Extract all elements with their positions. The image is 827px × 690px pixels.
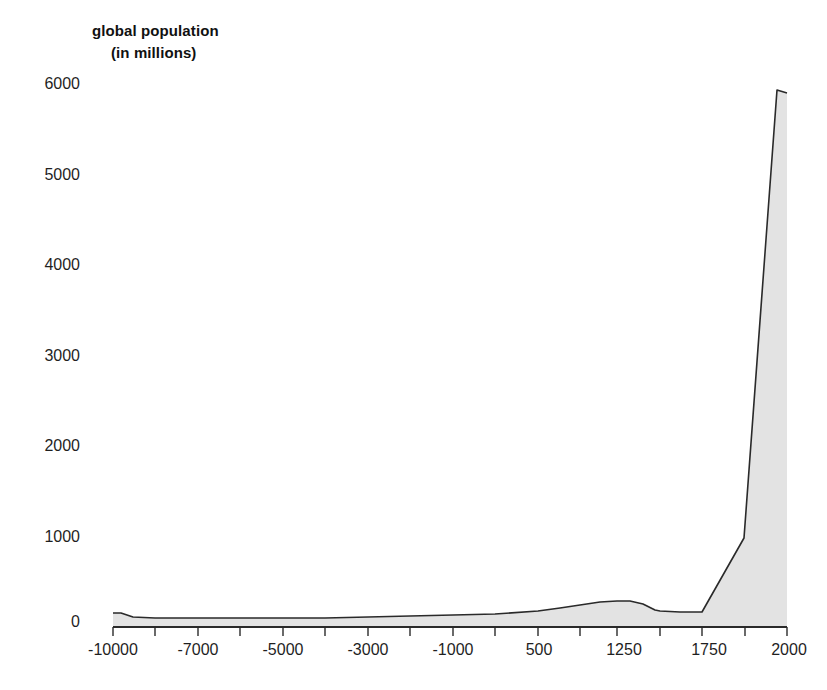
population-area-chart: global population (in millions) 6000 500… (0, 0, 827, 690)
population-curve-line (113, 90, 787, 618)
x-axis-ticks (113, 627, 787, 636)
plot-area (0, 0, 827, 690)
population-area-fill (113, 90, 787, 627)
